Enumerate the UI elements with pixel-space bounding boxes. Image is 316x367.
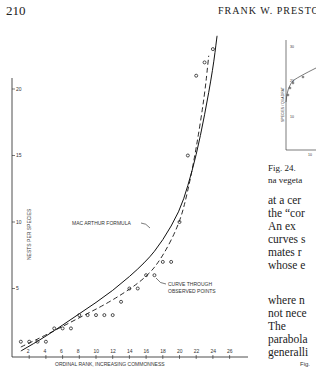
- x-axis-label: ORDINAL RANK, INCREASING COMMONNESS: [55, 361, 165, 367]
- body-line: at a cer: [268, 194, 301, 207]
- body-line: whose e: [268, 259, 305, 272]
- svg-text:10: 10: [16, 219, 22, 225]
- svg-text:16: 16: [144, 348, 150, 354]
- y-axis-label: NESTS PER SPECIES: [26, 208, 32, 260]
- data-point: [203, 61, 206, 64]
- data-point: [120, 300, 123, 303]
- svg-text:18: 18: [160, 348, 166, 354]
- body-line: parabola: [268, 333, 308, 346]
- side-figure: [286, 40, 316, 150]
- svg-text:10: 10: [290, 115, 294, 119]
- data-point: [44, 340, 47, 343]
- svg-text:26: 26: [227, 348, 233, 354]
- svg-text:20: 20: [16, 86, 22, 92]
- annotation-observed-1: CURVE THROUGH: [168, 281, 212, 287]
- body-line: not nece: [268, 307, 307, 320]
- svg-text:20: 20: [177, 348, 183, 354]
- caption-line-2: na vegeta: [268, 174, 302, 187]
- data-point: [103, 314, 106, 317]
- macarthur-curve: [21, 36, 217, 351]
- svg-text:8: 8: [77, 348, 80, 354]
- annotation-macarthur: MAC ARTHUR FORMULA: [72, 220, 131, 226]
- data-point: [69, 327, 72, 330]
- body-line: where n: [268, 294, 305, 307]
- svg-text:10: 10: [94, 348, 100, 354]
- svg-text:5: 5: [16, 285, 19, 291]
- body-line: mates r: [268, 246, 302, 259]
- svg-text:2: 2: [27, 348, 30, 354]
- data-point: [136, 287, 139, 290]
- svg-text:24: 24: [210, 348, 216, 354]
- annotation-observed-2: OBSERVED POINTS: [168, 288, 216, 294]
- data-point: [161, 260, 164, 263]
- data-point: [211, 48, 214, 51]
- data-point: [95, 314, 98, 317]
- svg-text:20: 20: [290, 79, 294, 83]
- svg-text:12: 12: [110, 348, 116, 354]
- body-line: generalli: [268, 346, 308, 359]
- svg-text:SPECIES / QUADRAT: SPECIES / QUADRAT: [281, 86, 285, 122]
- svg-text:6: 6: [60, 348, 63, 354]
- body-line: curves s: [268, 233, 305, 246]
- svg-text:14: 14: [127, 348, 133, 354]
- data-point: [111, 314, 114, 317]
- svg-text:22: 22: [194, 348, 200, 354]
- body-line: An ex: [268, 220, 296, 233]
- svg-text:4: 4: [43, 348, 46, 354]
- data-point: [153, 274, 156, 277]
- svg-text:15: 15: [16, 152, 22, 158]
- data-point: [19, 340, 22, 343]
- data-point: [195, 74, 198, 77]
- data-point: [170, 260, 173, 263]
- data-point: [86, 314, 89, 317]
- data-point: [53, 327, 56, 330]
- observed-curve: [21, 56, 209, 347]
- y-axis-ticks: 5101520: [12, 86, 22, 292]
- svg-text:30: 30: [290, 45, 294, 49]
- svg-text:10: 10: [308, 153, 312, 157]
- data-point: [61, 327, 64, 330]
- data-point: [186, 154, 189, 157]
- body-line: the “cor: [268, 207, 305, 220]
- figure-label: Fig.: [300, 361, 310, 367]
- body-line: The: [268, 320, 286, 333]
- chart-axes: [12, 78, 248, 357]
